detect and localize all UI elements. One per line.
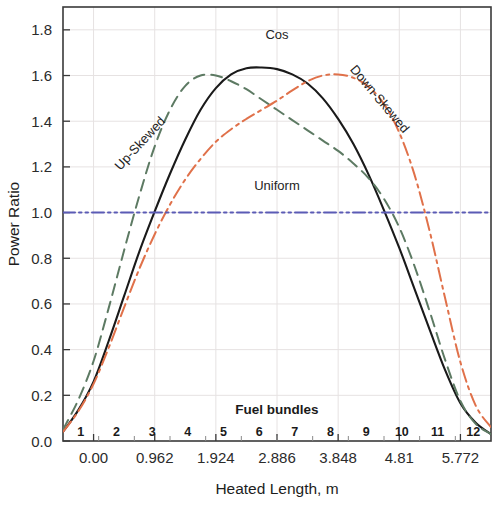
x-tick-label: 1.924 xyxy=(197,449,235,466)
fuel-bundle-number: 1 xyxy=(77,425,84,439)
y-tick-label: 1.2 xyxy=(31,158,52,175)
fuel-bundles-label: Fuel bundles xyxy=(235,402,318,417)
x-tick-label: 0.962 xyxy=(136,449,174,466)
fuel-bundle-number: 5 xyxy=(220,425,227,439)
y-tick-label: 1.6 xyxy=(31,67,52,84)
x-tick-label: 0.00 xyxy=(79,449,108,466)
fuel-bundle-number: 4 xyxy=(184,425,191,439)
x-tick-label: 5.772 xyxy=(442,449,480,466)
y-tick-label: 1.8 xyxy=(31,21,52,38)
fuel-bundle-number: 12 xyxy=(466,425,480,439)
fuel-bundle-number: 6 xyxy=(256,425,263,439)
fuel-bundle-number: 7 xyxy=(291,425,298,439)
y-tick-label: 0.0 xyxy=(31,433,52,450)
y-tick-label: 0.8 xyxy=(31,250,52,267)
y-tick-label: 0.6 xyxy=(31,295,52,312)
fuel-bundle-number: 8 xyxy=(327,425,334,439)
y-tick-label: 0.2 xyxy=(31,387,52,404)
fuel-bundle-number: 9 xyxy=(363,425,370,439)
x-tick-label: 2.886 xyxy=(258,449,296,466)
fuel-bundle-number: 10 xyxy=(395,425,409,439)
y-axis-title: Power Ratio xyxy=(5,182,22,266)
series-label-uniform: Uniform xyxy=(254,178,300,193)
series-label-cos: Cos xyxy=(265,27,289,42)
x-tick-label: 3.848 xyxy=(319,449,357,466)
power-ratio-chart: 0.00.20.40.60.81.01.21.41.61.8 0.000.962… xyxy=(0,0,503,508)
y-tick-label: 1.0 xyxy=(31,204,52,221)
x-axis-title: Heated Length, m xyxy=(215,480,338,497)
fuel-bundle-number: 11 xyxy=(431,425,444,439)
y-tick-label: 1.4 xyxy=(31,113,52,130)
y-tick-label: 0.4 xyxy=(31,341,52,358)
fuel-bundle-number: 2 xyxy=(113,425,120,439)
x-tick-label: 4.81 xyxy=(385,449,414,466)
chart-page: 0.00.20.40.60.81.01.21.41.61.8 0.000.962… xyxy=(0,0,503,508)
fuel-bundle-number: 3 xyxy=(149,425,156,439)
chart-background xyxy=(0,0,503,508)
